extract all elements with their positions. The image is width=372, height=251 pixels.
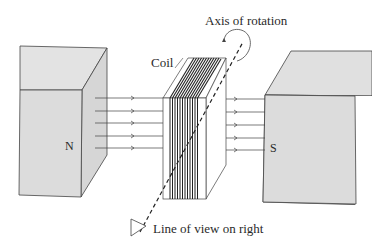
coil: Coil [151, 55, 226, 199]
north-magnet: N [19, 46, 107, 197]
coil-label: Coil [151, 55, 174, 70]
eye-view-icon [131, 219, 146, 236]
line-of-view-label: Line of view on right [153, 221, 264, 236]
axis-of-rotation-label: Axis of rotation [205, 13, 288, 28]
south-pole-label: S [270, 141, 277, 155]
coil-leader-line [175, 58, 183, 68]
south-magnet: S [263, 51, 372, 206]
south-magnet-top-face [265, 51, 372, 96]
north-pole-label: N [65, 139, 74, 153]
generator-diagram: N S [0, 0, 372, 251]
rotation-arrow-icon [224, 29, 250, 61]
